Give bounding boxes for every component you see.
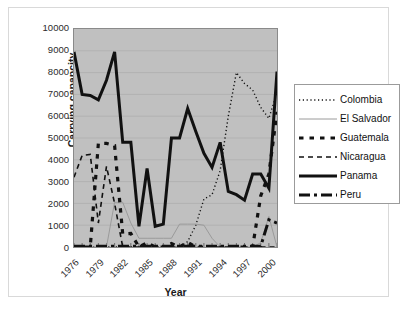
legend-item-peru[interactable]: Peru — [295, 185, 399, 204]
x-tick-label: 1991 — [178, 257, 204, 283]
legend-label: Nicaragua — [338, 151, 386, 162]
legend-label: Colombia — [338, 94, 382, 105]
dotted-line-key — [298, 94, 338, 106]
legend-label: Guatemala — [338, 132, 389, 143]
plot-wrapper: 1000090008000700060005000400030002000100… — [9, 8, 299, 298]
x-tick-label: 1979 — [79, 257, 105, 283]
x-axis-tick-labels: 197619791982198519881991199419972000 — [9, 8, 299, 298]
chart-legend: ColombiaEl SalvadorGuatemalaNicaraguaPan… — [294, 84, 400, 204]
x-tick-label: 1994 — [202, 257, 228, 283]
x-tick-label: 1988 — [153, 257, 179, 283]
legend-item-panama[interactable]: Panama — [295, 166, 399, 185]
x-tick-label: 1976 — [55, 257, 81, 283]
thin-gray-line-key — [298, 113, 338, 125]
thick-solid-line-key — [298, 170, 338, 182]
legend-item-colombia[interactable]: Colombia — [295, 90, 399, 109]
legend-label: El Salvador — [338, 113, 391, 124]
chart-frame: 1000090008000700060005000400030002000100… — [8, 7, 389, 297]
thick-dash-dot-line-key — [298, 189, 338, 201]
x-tick-label: 1997 — [227, 257, 253, 283]
legend-item-nicaragua[interactable]: Nicaragua — [295, 147, 399, 166]
dashed-line-key — [298, 151, 338, 163]
thick-square-dash-line-key — [298, 132, 338, 144]
x-tick-label: 2000 — [252, 257, 278, 283]
x-tick-label: 1985 — [129, 257, 155, 283]
x-axis-title: Year — [73, 286, 278, 298]
legend-label: Panama — [338, 170, 377, 181]
legend-item-guatemala[interactable]: Guatemala — [295, 128, 399, 147]
legend-item-el-salvador[interactable]: El Salvador — [295, 109, 399, 128]
x-tick-label: 1982 — [104, 257, 130, 283]
legend-label: Peru — [338, 189, 361, 200]
